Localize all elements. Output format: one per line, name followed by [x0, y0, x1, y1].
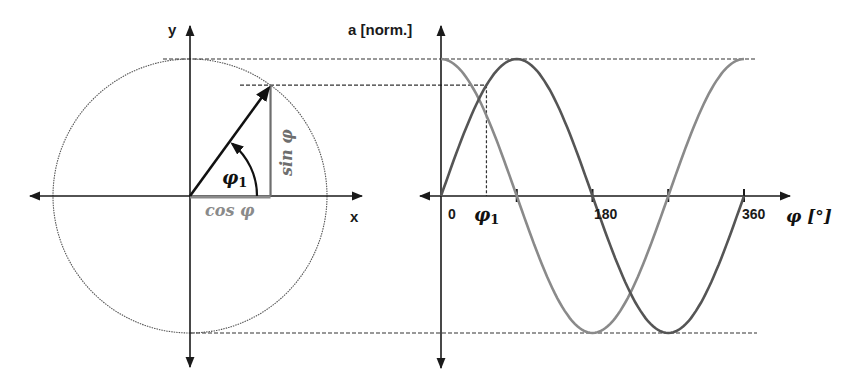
- right-x-axis-label: φ [°]: [786, 206, 832, 226]
- right-y-axis-label: a [norm.]: [348, 21, 412, 38]
- sin-label: sin φ: [277, 129, 296, 177]
- tick-label-360: 360: [742, 206, 766, 222]
- left-y-axis-label: y: [168, 21, 177, 38]
- cos-label: cos φ: [205, 201, 255, 220]
- angle-symbol: φ: [222, 167, 239, 188]
- tick-label-180: 180: [594, 206, 618, 222]
- phi1-symbol: φ: [474, 204, 491, 225]
- phi1-axis-label: φ1: [474, 204, 499, 227]
- diagram-canvas: y x φ1 sin φ cos φ a [norm.] φ [°] 0 180…: [0, 0, 858, 387]
- angle-label: φ1: [222, 167, 247, 190]
- phi1-subscript: 1: [490, 212, 499, 227]
- angle-subscript: 1: [238, 175, 247, 190]
- left-x-axis-label: x: [350, 208, 359, 225]
- tick-label-0: 0: [448, 206, 456, 222]
